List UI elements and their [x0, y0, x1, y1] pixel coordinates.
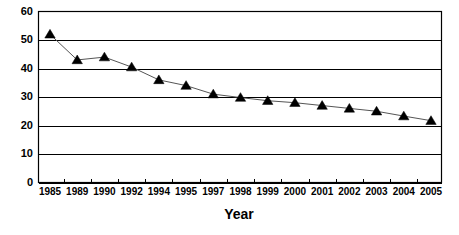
- chart-background: [0, 0, 459, 235]
- x-axis-tick-label: 2002: [338, 186, 361, 197]
- chart-container: 0102030405060 19851989199019921994199519…: [0, 0, 459, 235]
- x-axis-tick-label: 2003: [365, 186, 388, 197]
- y-axis-tick-label: 0: [27, 176, 33, 188]
- x-axis-tick-label: 1997: [202, 186, 225, 197]
- x-axis-tick-label: 1992: [121, 186, 144, 197]
- x-axis-tick-label: 1985: [39, 186, 62, 197]
- y-axis-tick-label: 50: [21, 33, 33, 45]
- x-axis-tick-label: 1999: [257, 186, 280, 197]
- x-axis-title: Year: [224, 206, 254, 222]
- x-axis-tick-label: 2001: [311, 186, 334, 197]
- x-axis-tick-label: 1989: [66, 186, 89, 197]
- x-axis-tick-label: 2000: [284, 186, 307, 197]
- x-axis-tick-label: 1994: [148, 186, 171, 197]
- y-axis-tick-label: 20: [21, 119, 33, 131]
- x-axis-tick-label: 1995: [175, 186, 198, 197]
- line-chart: 0102030405060 19851989199019921994199519…: [0, 0, 459, 235]
- x-axis-tick-label: 2005: [420, 186, 443, 197]
- y-axis-tick-label: 10: [21, 147, 33, 159]
- x-axis-tick-label: 1990: [93, 186, 116, 197]
- y-axis-tick-label: 30: [21, 90, 33, 102]
- x-axis-tick-label: 2004: [393, 186, 416, 197]
- x-axis-tick-labels: 1985198919901992199419951997199819992000…: [39, 186, 443, 197]
- y-axis-tick-label: 40: [21, 62, 33, 74]
- x-axis-tick-label: 1998: [229, 186, 252, 197]
- y-axis-tick-label: 60: [21, 5, 33, 17]
